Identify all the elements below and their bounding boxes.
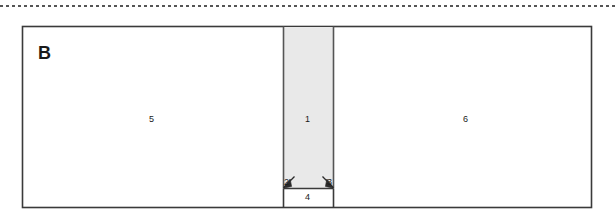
panel-letter-b: B xyxy=(38,44,52,62)
bottom-box-label-4: 4 xyxy=(305,193,310,202)
region-label-6: 6 xyxy=(463,115,468,124)
callout-label-3: 3 xyxy=(327,178,332,187)
region-label-1: 1 xyxy=(305,115,310,124)
region-label-5: 5 xyxy=(149,115,154,124)
center-column-shaded xyxy=(284,27,334,188)
callout-label-2: 2 xyxy=(284,178,289,187)
figure-panel-b: B 5 1 6 4 2 3 xyxy=(0,0,615,222)
figure-drawing xyxy=(0,0,615,222)
